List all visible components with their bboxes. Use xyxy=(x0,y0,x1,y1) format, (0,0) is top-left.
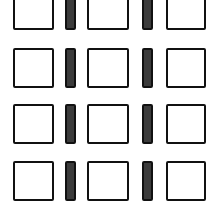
square-tile-r4-c1 xyxy=(13,161,54,201)
dark-bar-r3-c4 xyxy=(142,104,153,144)
square-tile-r3-c3 xyxy=(87,104,129,144)
dark-bar-r4-c4 xyxy=(142,161,153,201)
dark-bar-r3-c2 xyxy=(65,104,76,144)
square-tile-r2-c5 xyxy=(166,48,206,88)
square-tile-r2-c1 xyxy=(13,48,54,88)
square-tile-r4-c3 xyxy=(87,161,129,201)
square-tile-r1-c5 xyxy=(166,0,206,30)
square-tile-r1-c3 xyxy=(87,0,129,30)
dark-bar-r2-c2 xyxy=(65,48,76,88)
tile-pattern-grid xyxy=(0,0,217,207)
dark-bar-r2-c4 xyxy=(142,48,153,88)
dark-bar-r1-c4 xyxy=(142,0,153,30)
dark-bar-r4-c2 xyxy=(65,161,76,201)
square-tile-r2-c3 xyxy=(87,48,129,88)
square-tile-r4-c5 xyxy=(166,161,206,201)
dark-bar-r1-c2 xyxy=(65,0,76,30)
square-tile-r3-c5 xyxy=(166,104,206,144)
square-tile-r3-c1 xyxy=(13,104,54,144)
square-tile-r1-c1 xyxy=(13,0,54,30)
